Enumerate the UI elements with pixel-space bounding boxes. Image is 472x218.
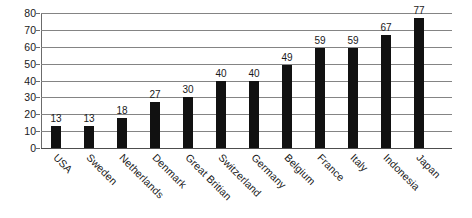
x-axis-category-label: France [316, 152, 347, 183]
y-axis-tick-mark [36, 81, 40, 82]
y-axis-tick-label: 50 [6, 58, 36, 69]
y-axis-tick-label: 20 [6, 109, 36, 120]
bar [315, 48, 325, 148]
bar-value-label: 13 [50, 114, 61, 124]
x-axis-category-label: Italy [349, 152, 370, 173]
bar-value-label: 49 [281, 53, 292, 63]
y-axis-tick-mark [36, 64, 40, 65]
bar-value-label: 40 [248, 69, 259, 79]
bar [51, 126, 61, 148]
y-axis-ticks: 80706050403020100 [0, 13, 36, 148]
plot-area [41, 13, 452, 148]
bar [183, 97, 193, 148]
y-axis-tick-mark [36, 114, 40, 115]
bar [150, 102, 160, 148]
bar [84, 126, 94, 148]
bar [249, 81, 259, 149]
y-axis-tick-mark [36, 97, 40, 98]
axis-baseline [41, 148, 452, 149]
bar [414, 18, 424, 148]
bar-value-label: 27 [149, 90, 160, 100]
bar-value-label: 40 [215, 69, 226, 79]
y-axis-tick-label: 0 [6, 143, 36, 154]
bar-value-label: 59 [314, 36, 325, 46]
y-axis-tick-label: 70 [6, 25, 36, 36]
bar [282, 65, 292, 148]
bar-value-label: 59 [347, 36, 358, 46]
y-axis-tick-mark [36, 30, 40, 31]
y-axis-tick-label: 30 [6, 92, 36, 103]
bar [381, 35, 391, 148]
y-axis-tick-label: 10 [6, 126, 36, 137]
y-axis-tick-mark [36, 47, 40, 48]
bar [216, 81, 226, 149]
bar [348, 48, 358, 148]
y-axis-tick-label: 60 [6, 42, 36, 53]
gridline [41, 13, 452, 14]
bar-value-label: 13 [83, 114, 94, 124]
bar-value-label: 30 [182, 85, 193, 95]
bar-value-label: 77 [413, 6, 424, 16]
y-axis-tick-label: 80 [6, 8, 36, 19]
y-axis-tick-mark [36, 13, 40, 14]
bar-value-label: 67 [380, 23, 391, 33]
x-axis-category-label: Sweden [85, 152, 120, 187]
bar-value-label: 18 [116, 106, 127, 116]
x-axis-category-label: Japan [415, 152, 443, 180]
bar-chart: 80706050403020100 1313182730404049595967… [0, 0, 472, 218]
x-axis-category-label: USA [52, 152, 75, 175]
y-axis-tick-mark [36, 148, 40, 149]
y-axis-tick-label: 40 [6, 75, 36, 86]
bar [117, 118, 127, 148]
y-axis-tick-mark [36, 131, 40, 132]
